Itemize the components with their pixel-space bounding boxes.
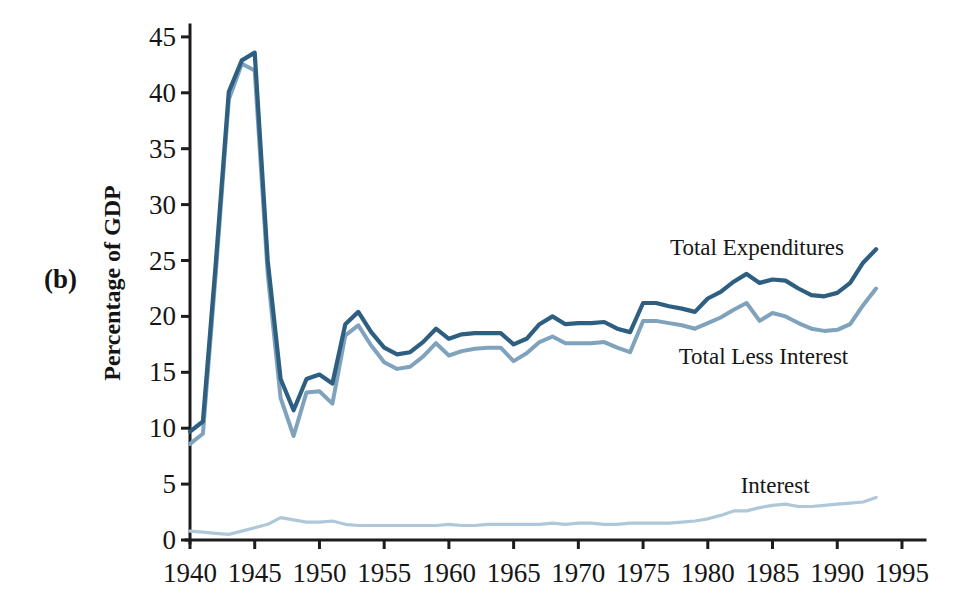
x-tick-label: 1985 <box>746 558 800 588</box>
series-label-total-less-interest: Total Less Interest <box>679 344 849 369</box>
y-tick-label: 0 <box>163 525 177 555</box>
x-tick-label: 1990 <box>810 558 864 588</box>
x-tick-label: 1955 <box>357 558 411 588</box>
x-tick-label: 1975 <box>616 558 670 588</box>
x-tick-label: 1940 <box>163 558 217 588</box>
y-tick-label: 45 <box>149 22 176 52</box>
x-tick-label: 1945 <box>228 558 282 588</box>
series-line-interest <box>190 498 876 535</box>
line-chart: 1940194519501955196019651970197519801985… <box>0 0 975 611</box>
y-tick-label: 25 <box>149 246 176 276</box>
x-tick-label: 1995 <box>875 558 929 588</box>
y-tick-label: 35 <box>149 134 176 164</box>
series-label-total-expenditures: Total Expenditures <box>670 235 844 260</box>
x-tick-label: 1950 <box>292 558 346 588</box>
y-tick-label: 30 <box>149 190 176 220</box>
chart-figure: (b) Percentage of GDP 194019451950195519… <box>0 0 975 611</box>
y-tick-label: 15 <box>149 357 176 387</box>
x-tick-label: 1960 <box>422 558 476 588</box>
y-tick-label: 10 <box>149 413 176 443</box>
y-tick-label: 5 <box>163 469 177 499</box>
series-label-interest: Interest <box>741 473 811 498</box>
x-tick-label: 1980 <box>681 558 735 588</box>
y-tick-label: 40 <box>149 78 176 108</box>
x-tick-label: 1970 <box>551 558 605 588</box>
x-tick-label: 1965 <box>487 558 541 588</box>
y-tick-label: 20 <box>149 301 176 331</box>
